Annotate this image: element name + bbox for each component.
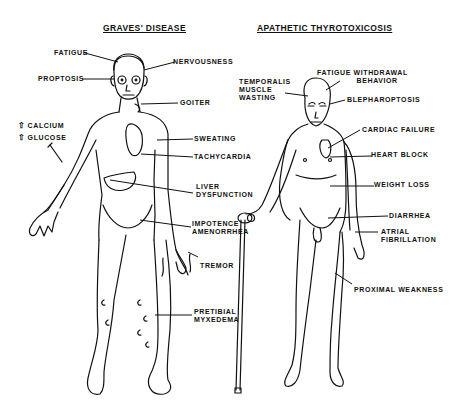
label-liver-dysfunction: LIVER DYSFUNCTION	[196, 183, 253, 199]
label-diarrhea: DIARRHEA	[389, 212, 431, 220]
label-weight-loss: WEIGHT LOSS	[374, 181, 430, 189]
apathetic-thyrotoxicosis-title: APATHETIC THYROTOXICOSIS	[257, 23, 392, 33]
label-atrial: ATRIAL	[381, 228, 436, 236]
label-tachycardia: TACHYCARDIA	[194, 153, 251, 161]
label-sweating: SWEATING	[194, 135, 236, 143]
label-impotence-amenorrhea: IMPOTENCE AMENORRHEA	[192, 220, 249, 236]
label-glucose-text: GLUCOSE	[28, 134, 67, 141]
label-liver-line1: LIVER	[196, 183, 253, 191]
label-calcium: ⇧CALCIUM	[18, 122, 64, 130]
label-fibrillation: FIBRILLATION	[381, 236, 436, 244]
label-calcium-text: CALCIUM	[28, 122, 64, 129]
label-fatigue-withdrawal: FATIGUE WITHDRAWAL	[317, 69, 408, 77]
label-pretibial-myxedema: PRETIBIAL MYXEDEMA	[194, 308, 239, 324]
label-proximal-weakness: PROXIMAL WEAKNESS	[354, 286, 443, 294]
label-tremor: TREMOR	[200, 262, 234, 270]
up-arrow-icon: ⇧	[18, 122, 26, 130]
label-myxedema: MYXEDEMA	[194, 316, 239, 324]
label-muscle: MUSCLE	[239, 86, 291, 94]
thyroid-comparison-diagram: GRAVES' DISEASE APATHETIC THYROTOXICOSIS…	[0, 0, 453, 410]
label-impotence: IMPOTENCE	[192, 220, 249, 228]
label-liver-line2: DYSFUNCTION	[196, 191, 253, 199]
label-heart-block: HEART BLOCK	[371, 151, 429, 159]
graves-figure	[29, 53, 198, 394]
label-proptosis: PROPTOSIS	[38, 75, 84, 83]
label-fatigue: FATIGUE	[54, 49, 88, 57]
label-atrial-fibrillation: ATRIAL FIBRILLATION	[381, 228, 436, 244]
label-temporalis-muscle-wasting: TEMPORALIS MUSCLE WASTING	[239, 78, 291, 102]
label-nervousness: NERVOUSNESS	[173, 58, 233, 66]
label-fatigue-withdrawal-behavior: FATIGUE WITHDRAWAL BEHAVIOR	[317, 69, 408, 85]
graves-disease-title: GRAVES' DISEASE	[103, 23, 186, 33]
label-temporalis: TEMPORALIS	[239, 78, 291, 86]
label-pretibial: PRETIBIAL	[194, 308, 239, 316]
up-arrow-icon: ⇧	[18, 134, 26, 142]
label-behavior: BEHAVIOR	[317, 77, 398, 85]
label-glucose: ⇧GLUCOSE	[18, 134, 66, 142]
label-amenorrhea: AMENORRHEA	[192, 228, 249, 236]
label-cardiac-failure: CARDIAC FAILURE	[362, 126, 435, 134]
label-wasting: WASTING	[239, 94, 291, 102]
label-goiter: GOITER	[180, 99, 210, 107]
label-blepharoptosis: BLEPHAROPTOSIS	[347, 96, 420, 104]
